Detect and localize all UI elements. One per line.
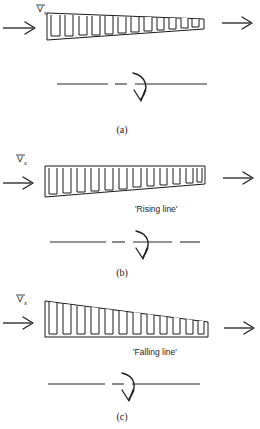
- panel-b-annotation: 'Rising line': [135, 204, 178, 214]
- panel-b-inlet-label: V: [17, 154, 23, 164]
- panel-a-outlet-arrow: [222, 17, 252, 29]
- panel-a-rotation-arrow: [133, 73, 146, 101]
- panel-c-rotation-arrow: [122, 373, 134, 401]
- panel-c-caption: (c): [116, 411, 127, 423]
- panel-c-inlet-sublabel: x: [24, 300, 27, 306]
- panel-b-inlet-sublabel: x: [24, 160, 27, 166]
- panel-c-drawing: V x: [0, 285, 260, 429]
- panel-b-inlet-arrow: [3, 177, 33, 189]
- panel-c-outlet-arrow: [224, 322, 254, 334]
- panel-a: V x: [0, 0, 260, 145]
- figure-container: V x: [0, 0, 260, 429]
- panel-a-caption: (a): [116, 124, 127, 136]
- panel-c-annotation: 'Falling line': [133, 347, 177, 357]
- panel-c: V x: [0, 285, 260, 429]
- panel-b-rotation-arrow: [136, 231, 148, 259]
- panel-a-drawing: V x: [0, 0, 260, 145]
- panel-c-inlet-label: V: [17, 294, 23, 304]
- panel-a-inlet-arrow: [3, 22, 35, 34]
- panel-b-caption: (b): [116, 267, 128, 279]
- panel-b-drawing: V x: [0, 145, 260, 285]
- panel-b-outlet-arrow: [223, 172, 253, 184]
- panel-a-inlet-label: V: [37, 4, 43, 14]
- panel-b: V x: [0, 145, 260, 285]
- panel-c-inlet-arrow: [3, 317, 33, 329]
